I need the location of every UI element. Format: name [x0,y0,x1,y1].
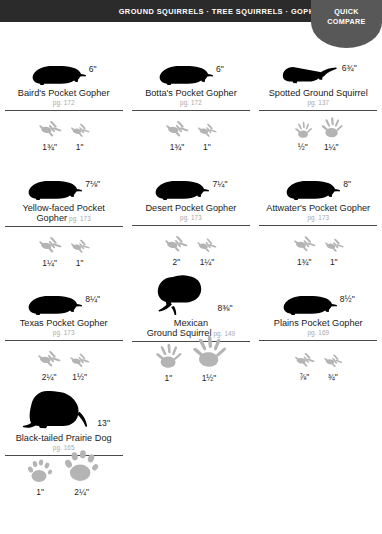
quick-compare-tab[interactable]: QUICK COMPARE [311,0,382,48]
track-size-label: 2¼" [42,372,57,382]
tracks-row: 1¾" 1" [127,114,254,152]
silhouette-area: 8" [255,167,382,200]
species-row: 6" Baird's Pocket Gopher pg. 172 1¾" [0,52,382,167]
species-name-line1: Mexican [129,318,252,328]
track-print [68,351,91,370]
track-entry: ½" [293,120,313,152]
track-entry: 1¾" [164,118,190,152]
animal-silhouette [280,63,340,85]
track-entry: 1" [153,341,183,383]
tracks-row: 1" 1½" [127,345,254,383]
track-entry: 1" [69,121,91,152]
track-entry: 1" [196,121,218,152]
track-size-label: ¾" [328,372,338,382]
track-print [293,350,316,370]
body-size-label: 7¼" [212,179,227,189]
animal-silhouette [27,179,83,200]
silhouette-area: 6" [127,52,254,85]
tracks-row: 1¼" 1" [0,230,127,268]
track-print [323,236,345,255]
track-entry: 1½" [189,332,228,383]
animal-silhouette [27,294,83,315]
track-print [293,120,313,140]
track-size-label: ⅞" [299,372,309,382]
species-name-block: Desert Pocket Gopher pg. 173 [127,200,254,224]
track-size-label: 1" [76,258,84,268]
track-print [69,237,91,256]
silhouette-area: 7¼" [127,167,254,200]
track-print [25,455,55,485]
species-name-line1: Black-tailed Prairie Dog [2,433,125,443]
page-reference[interactable]: pg. 169 [257,328,380,338]
track-size-label: 1" [203,142,211,152]
track-entry: 1" [323,236,345,267]
silhouette-area: 6¾" [255,52,382,85]
species-name-line1: Plains Pocket Gopher [257,318,380,328]
species-entry: 6¾" Spotted Ground Squirrel pg. 137 ½" [255,52,382,167]
species-entry: 6" Botta's Pocket Gopher pg. 172 1¾" [127,52,254,167]
tracks-row: 2¼" 1½" [0,344,127,382]
species-name-line2: Gopherpg. 173 [2,213,125,224]
tracks-row: 1¾" 1" [0,114,127,152]
species-row: 13" Black-tailed Prairie Dog pg. 165 1" [0,397,382,512]
track-entry: 1" [25,455,55,497]
animal-silhouette [17,388,95,430]
species-name-block: Yellow-faced Pocket Gopherpg. 173 [0,200,127,225]
page-reference[interactable]: pg. 173 [2,328,125,338]
track-size-label: ½" [298,142,308,152]
silhouette-area: 8⅜" [127,282,254,315]
page-reference[interactable]: pg. 173 [257,213,380,223]
track-size-label: 1¾" [297,257,312,267]
track-print [37,234,63,256]
silhouette-area: 6" [0,52,127,85]
species-grid: 6" Baird's Pocket Gopher pg. 172 1¾" [0,52,382,512]
entry-divider [5,226,123,227]
animal-silhouette [149,275,215,315]
track-entry: 1¼" [37,234,63,268]
page-reference[interactable]: pg. 173 [69,215,91,222]
page-reference[interactable]: pg. 173 [129,213,252,223]
species-name-line1: Texas Pocket Gopher [2,318,125,328]
track-entry: 1½" [68,351,91,382]
track-size-label: 2¼" [74,487,89,497]
entry-divider [132,225,250,226]
track-size-label: 1¾" [170,142,185,152]
track-print [292,233,317,255]
track-size-label: 1" [165,373,173,383]
species-entry: 7⅛" Yellow-faced Pocket Gopherpg. 173 1¼… [0,167,127,282]
track-print [36,348,62,370]
track-size-label: 1" [330,257,338,267]
page-reference[interactable]: pg. 172 [2,98,125,108]
track-entry: 2" [163,233,189,267]
species-row: 8¼" Texas Pocket Gopher pg. 173 2¼" [0,282,382,397]
track-print [69,121,91,140]
track-entry: ¾" [322,352,344,382]
body-size-label: 6" [216,64,224,74]
animal-silhouette [31,64,87,85]
body-size-label: 8⅜" [217,303,232,313]
body-size-label: 8½" [340,294,355,304]
entry-divider [259,340,377,341]
track-entry: 1¼" [195,236,218,267]
track-size-label: 1¾" [42,142,57,152]
track-print [196,121,218,140]
quick-compare-tab-line2: COMPARE [327,17,365,27]
page-reference[interactable]: pg. 172 [129,98,252,108]
page-reference[interactable]: pg. 137 [257,98,380,108]
species-entry: 6" Baird's Pocket Gopher pg. 172 1¾" [0,52,127,167]
species-name-line1: Baird's Pocket Gopher [2,88,125,98]
entry-divider [259,110,377,111]
species-name-block: Botta's Pocket Gopher pg. 172 [127,85,254,109]
tracks-row: ½" 1¼" [255,114,382,152]
tracks-row: ⅞" ¾" [255,344,382,382]
track-entry: 1¾" [292,233,317,267]
track-print [61,444,102,485]
animal-silhouette [285,179,341,200]
animal-silhouette [154,179,210,200]
species-name-line1: Desert Pocket Gopher [129,203,252,213]
track-size-label: 1¼" [42,258,57,268]
track-entry: 2¼" [36,348,62,382]
animal-silhouette [158,64,214,85]
species-name-line1: Spotted Ground Squirrel [257,88,380,98]
species-name-block: Texas Pocket Gopher pg. 173 [0,315,127,339]
